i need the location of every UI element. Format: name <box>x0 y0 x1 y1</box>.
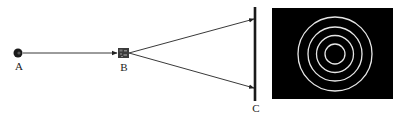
pattern-background <box>272 8 393 99</box>
light-source-highlight <box>17 51 20 54</box>
beam-b-to-c-lower <box>129 53 254 88</box>
label-source-a: A <box>15 61 23 72</box>
optics-diagram <box>0 0 407 118</box>
beam-b-to-c-upper <box>129 19 254 53</box>
label-element-b: B <box>120 62 127 73</box>
ring-pattern-inset <box>272 8 393 99</box>
optical-element-b <box>118 48 129 58</box>
label-screen-c: C <box>252 103 259 114</box>
screen-c <box>254 7 257 101</box>
